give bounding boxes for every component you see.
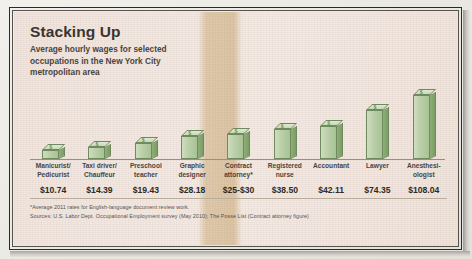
value-label: $38.50 <box>262 185 308 195</box>
category-label-line: designer <box>170 171 214 180</box>
bar-front-face <box>42 150 59 159</box>
dollar-icon: $ <box>281 123 284 129</box>
bar-cell: $ <box>123 93 169 159</box>
bar-front-face <box>274 129 291 159</box>
bar-side-face <box>291 126 297 159</box>
category-label-line: Registered <box>263 162 307 171</box>
bar-front-face <box>320 126 337 159</box>
bar-front-face <box>413 95 430 159</box>
category-label-line: Chauffeur <box>77 171 121 180</box>
dollar-icon: $ <box>142 137 145 143</box>
footnote-sources: Sources: U.S. Labor Dept. Occupational E… <box>30 212 447 221</box>
value-label: $28.18 <box>169 185 215 195</box>
bar[interactable]: $ <box>227 134 249 159</box>
bar-side-face <box>152 140 158 159</box>
category-label-line: Accountant <box>309 162 353 171</box>
dollar-icon: $ <box>188 130 191 136</box>
value-label: $42.11 <box>308 185 354 195</box>
bar-front-face <box>135 143 152 159</box>
category-label: Manicurist/Pedicurist <box>30 162 76 182</box>
plot-area: $$$$$$$$$ <box>30 94 447 160</box>
value-label: $108.04 <box>401 185 447 195</box>
category-label-line: Contract <box>216 162 260 171</box>
bar[interactable]: $ <box>42 150 64 159</box>
category-label-line: ologist <box>402 171 446 180</box>
value-labels: $10.74$14.39$19.43$28.18$25-$30$38.50$42… <box>30 182 447 198</box>
category-label: Preschoolteacher <box>123 162 169 182</box>
category-label-line: Anesthesi- <box>402 162 446 171</box>
category-label-line: Pedicurist <box>31 171 75 180</box>
category-label-line: Manicurist/ <box>31 162 75 171</box>
category-label-line: Lawyer <box>355 162 399 171</box>
bar-cell: $ <box>76 93 122 159</box>
footnote-divider <box>30 198 447 199</box>
bar-cell: $ <box>354 93 400 159</box>
category-label-line: Preschool <box>124 162 168 171</box>
footnote-note: *Average 2011 rates for English-language… <box>30 203 447 212</box>
dollar-icon: $ <box>49 144 52 150</box>
bar-cell: $ <box>308 93 354 159</box>
dollar-icon: $ <box>420 89 423 95</box>
axis-baseline <box>30 159 445 160</box>
bar[interactable]: $ <box>88 147 110 159</box>
bar-side-face <box>337 123 343 159</box>
chart-title: Stacking Up <box>30 24 260 40</box>
category-label: Contractattorney* <box>215 162 261 182</box>
bar-side-face <box>198 133 204 159</box>
bar[interactable]: $ <box>135 143 157 159</box>
category-label: Lawyer <box>354 162 400 182</box>
bar[interactable]: $ <box>181 136 203 159</box>
bar-front-face <box>366 110 383 159</box>
bar-front-face <box>227 134 244 159</box>
value-label: $25-$30 <box>215 185 261 195</box>
dollar-icon: $ <box>95 141 98 147</box>
footnotes: *Average 2011 rates for English-language… <box>30 203 447 221</box>
dollar-icon: $ <box>327 120 330 126</box>
category-label-line: attorney* <box>216 171 260 180</box>
bar-cell: $ <box>401 93 447 159</box>
bar-front-face <box>88 147 105 159</box>
bar[interactable]: $ <box>274 129 296 159</box>
bar-cell: $ <box>169 93 215 159</box>
category-label: Taxi driver/Chauffeur <box>76 162 122 182</box>
bar[interactable]: $ <box>320 126 342 159</box>
bar[interactable]: $ <box>366 110 388 159</box>
chart-canvas: Stacking Up Average hourly wages for sel… <box>14 12 457 245</box>
page-shadow-bottom <box>10 251 470 257</box>
category-label-line: teacher <box>124 171 168 180</box>
bar[interactable]: $ <box>413 95 435 159</box>
category-label: Anesthesi-ologist <box>401 162 447 182</box>
value-label: $19.43 <box>123 185 169 195</box>
category-label: Accountant <box>308 162 354 182</box>
bar-side-face <box>383 107 389 159</box>
bar-side-face <box>244 131 250 159</box>
category-label: Graphicdesigner <box>169 162 215 182</box>
category-label-line: Taxi driver/ <box>77 162 121 171</box>
category-labels: Manicurist/PedicuristTaxi driver/Chauffe… <box>30 162 447 182</box>
dollar-icon: $ <box>373 104 376 110</box>
dollar-icon: $ <box>234 128 237 134</box>
bar-cell: $ <box>30 93 76 159</box>
page-shadow-right <box>463 10 470 256</box>
bar-cell: $ <box>215 93 261 159</box>
value-label: $14.39 <box>76 185 122 195</box>
bar-cell: $ <box>262 93 308 159</box>
value-label: $10.74 <box>30 185 76 195</box>
chart-heading: Stacking Up Average hourly wages for sel… <box>30 24 260 79</box>
page: Stacking Up Average hourly wages for sel… <box>0 0 472 259</box>
category-label: Registerednurse <box>262 162 308 182</box>
value-label: $74.35 <box>354 185 400 195</box>
category-label-line: Graphic <box>170 162 214 171</box>
bar-group: $$$$$$$$$ <box>30 93 447 159</box>
chart-subtitle: Average hourly wages for selected occupa… <box>30 44 202 78</box>
bar-side-face <box>105 144 111 159</box>
bar-side-face <box>430 92 436 159</box>
category-label-line: nurse <box>263 171 307 180</box>
bar-front-face <box>181 136 198 159</box>
